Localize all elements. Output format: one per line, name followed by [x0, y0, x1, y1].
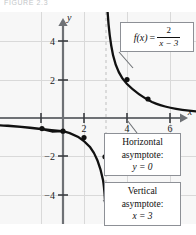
figure-panel: FIGURE 2.3 — [0, 0, 196, 235]
horizontal-asymptote-callout: Horizontal asymptote: y = 0 — [104, 133, 181, 176]
data-point — [145, 96, 150, 101]
data-point — [81, 135, 86, 140]
formula-callout: f(x) = 2 x − 3 — [120, 22, 194, 52]
vasym-equation: x = 3 — [105, 210, 180, 223]
vertical-asymptote-callout: Vertical asymptote: x = 3 — [104, 182, 181, 226]
hasym-line-1: Horizontal — [105, 136, 180, 149]
data-point — [39, 126, 44, 131]
data-point — [60, 129, 65, 134]
y-tick-label-neg2: −2 — [44, 151, 55, 162]
x-tick-label-2: 2 — [82, 123, 87, 134]
hasym-equation: y = 0 — [105, 161, 180, 174]
vasym-line-2: asymptote: — [105, 198, 180, 211]
y-tick-label-2: 2 — [50, 75, 55, 86]
hasym-line-2: asymptote: — [105, 149, 180, 162]
formula-fraction: 2 x − 3 — [157, 26, 180, 48]
formula-numerator: 2 — [165, 26, 174, 35]
formula-equals: = — [150, 32, 156, 43]
y-axis-label: y — [66, 12, 72, 23]
y-tick-label-neg4: −4 — [44, 190, 55, 201]
formula-function-name: f(x) — [134, 32, 148, 43]
figure-caption: FIGURE 2.3 — [4, 0, 48, 6]
data-point — [124, 77, 129, 82]
y-tick-label-4: 4 — [50, 36, 55, 47]
formula-denominator: x − 3 — [157, 39, 180, 48]
vasym-line-1: Vertical — [105, 185, 180, 198]
